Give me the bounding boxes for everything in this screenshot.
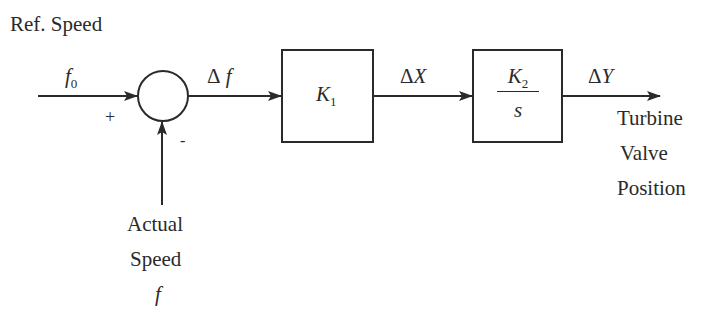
k2-over-s-label: K2 s [497,64,539,123]
feedback-label-line2: Speed [130,249,181,270]
k1-label: K1 [316,84,337,105]
delta-x-label: ΔX [400,66,426,87]
delta-y-label: ΔY [588,66,613,87]
plus-sign: + [105,108,115,126]
diagram-canvas [0,0,720,324]
output-label-line3: Position [617,178,686,199]
output-label-line1: Turbine [617,108,683,129]
input-signal-label: f0 [65,66,77,87]
feedback-label-line1: Actual [127,214,183,235]
minus-sign: - [180,133,185,149]
summing-junction [138,71,188,121]
ref-speed-label: Ref. Speed [10,14,102,35]
feedback-signal-label: f [155,284,161,305]
error-signal-label: Δ f [207,66,232,87]
output-label-line2: Valve [620,143,668,164]
